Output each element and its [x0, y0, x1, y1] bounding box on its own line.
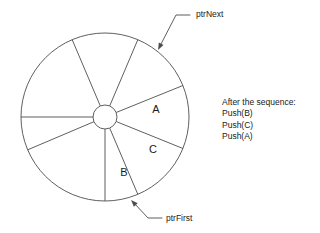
sequence-note: After the sequence: Push(B) Push(C) Push… [222, 97, 296, 143]
wheel-hub-circle [93, 105, 117, 129]
pointer-leaders [131, 15, 190, 218]
wheel-spoke-2 [116, 86, 183, 113]
wheel-spoke-1 [110, 40, 138, 106]
sequence-note-heading: After the sequence: [222, 97, 296, 108]
wheel-spoke-4 [110, 128, 138, 194]
ptr-next-label: ptrNext [196, 10, 223, 19]
sequence-op-0: Push(B) [222, 108, 296, 119]
sequence-op-1: Push(C) [222, 120, 296, 131]
ptr-next-leader-line [160, 15, 190, 46]
ptr-next-arrowhead-icon [158, 43, 164, 50]
wheel-spoke-6 [28, 122, 94, 150]
ptr-first-leader-line [134, 203, 162, 218]
wheel-spoke-0 [72, 40, 100, 106]
slot-b-label: B [120, 166, 127, 178]
sequence-op-2: Push(A) [222, 131, 296, 142]
ptr-first-label: ptrFirst [166, 214, 192, 223]
wheel-slot-labels: ACB [120, 103, 160, 178]
slot-a-label: A [152, 103, 160, 115]
slot-c-label: C [149, 143, 157, 155]
